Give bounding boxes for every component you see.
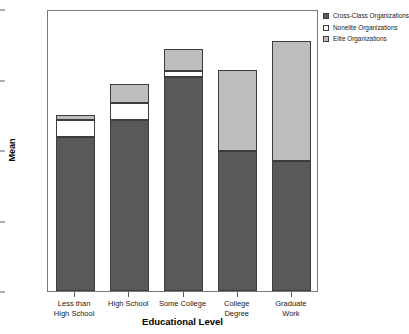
bar-segment-cross-class[interactable] — [110, 120, 149, 291]
legend-item: Nonelite Organizations — [323, 24, 409, 32]
legend-label: Elite Organizations — [333, 35, 387, 43]
y-tick-mark — [0, 292, 5, 293]
bar-segment-cross-class[interactable] — [56, 137, 95, 291]
bar-segment-nonelite[interactable] — [110, 103, 149, 120]
bar-segment-elite[interactable] — [164, 49, 203, 72]
y-tick-mark — [0, 10, 5, 11]
x-tick-label: High School — [108, 299, 148, 309]
x-tick-mark — [74, 292, 75, 297]
bar-segment-cross-class[interactable] — [218, 151, 257, 291]
x-tick-mark — [237, 292, 238, 297]
legend: Cross-Class Organizations Nonelite Organ… — [323, 12, 409, 47]
legend-swatch-elite-icon — [323, 36, 329, 42]
bar-segment-cross-class[interactable] — [164, 77, 203, 291]
bar-segment-cross-class[interactable] — [272, 161, 311, 291]
x-tick-mark — [183, 292, 184, 297]
bar-segment-elite[interactable] — [110, 84, 149, 104]
legend-swatch-nonelite-icon — [323, 25, 329, 31]
chart-canvas: Mean 0.000.501.001.502.00 Less than High… — [0, 0, 409, 334]
y-axis: Mean 0.000.501.001.502.00 — [0, 0, 47, 302]
bar-segment-elite[interactable] — [272, 41, 311, 161]
y-axis-title: Mean — [7, 120, 17, 180]
x-axis: Less than High SchoolHigh SchoolSome Col… — [47, 292, 318, 334]
plot-area — [47, 10, 318, 292]
x-tick-mark — [291, 292, 292, 297]
y-tick-mark — [0, 221, 5, 222]
x-tick-mark — [128, 292, 129, 297]
bar-segment-elite[interactable] — [218, 70, 257, 152]
y-tick-mark — [0, 80, 5, 81]
legend-swatch-cross-class-icon — [323, 13, 329, 19]
y-tick-mark — [0, 151, 5, 152]
legend-item: Elite Organizations — [323, 35, 409, 43]
legend-label: Cross-Class Organizations — [333, 12, 409, 20]
x-tick-label: Some College — [159, 299, 206, 309]
bar-segment-nonelite[interactable] — [56, 120, 95, 137]
x-axis-title: Educational Level — [47, 316, 318, 327]
legend-label: Nonelite Organizations — [333, 24, 398, 32]
legend-item: Cross-Class Organizations — [323, 12, 409, 20]
